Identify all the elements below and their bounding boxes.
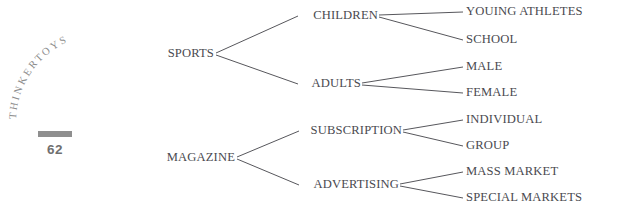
link-adults-female xyxy=(362,85,463,93)
node-children: CHILDREN xyxy=(313,8,378,22)
node-magazine: MAGAZINE xyxy=(167,150,236,164)
link-children-school xyxy=(379,17,463,40)
link-sports-children xyxy=(216,16,298,53)
node-advertising: ADVERTISING xyxy=(313,177,399,191)
link-advertising-special-markets xyxy=(400,186,463,198)
book-page: THINKERTOYS 62 SPORTS CHILDREN ADULTS YO… xyxy=(0,0,617,219)
link-children-youing xyxy=(379,12,463,15)
tree-branch-magazine: MAGAZINE SUBSCRIPTION ADVERTISING INDIVI… xyxy=(167,112,583,204)
leaf-individual: INDIVIDUAL xyxy=(466,112,542,126)
node-sports: SPORTS xyxy=(168,46,214,60)
node-subscription: SUBSCRIPTION xyxy=(311,123,402,137)
leaf-group: GROUP xyxy=(466,138,509,152)
link-magazine-advertising xyxy=(237,159,299,185)
leaf-school: SCHOOL xyxy=(466,32,517,46)
leaf-youing-athletes: YOUING ATHLETES xyxy=(466,4,583,18)
leaf-special-markets: SPECIAL MARKETS xyxy=(466,190,582,204)
link-magazine-subscription xyxy=(237,131,299,157)
link-subscription-individual xyxy=(403,120,463,130)
tree-branch-sports: SPORTS CHILDREN ADULTS YOUING ATHLETES S… xyxy=(168,4,583,99)
leaf-male: MALE xyxy=(466,59,502,73)
link-sports-adults xyxy=(216,55,298,84)
link-advertising-mass-market xyxy=(400,172,463,184)
link-adults-male xyxy=(362,67,463,83)
node-adults: ADULTS xyxy=(312,76,361,90)
leaf-mass-market: MASS MARKET xyxy=(466,164,558,178)
leaf-female: FEMALE xyxy=(466,85,517,99)
link-subscription-group xyxy=(403,132,463,146)
branching-tree-diagram: SPORTS CHILDREN ADULTS YOUING ATHLETES S… xyxy=(0,0,617,219)
